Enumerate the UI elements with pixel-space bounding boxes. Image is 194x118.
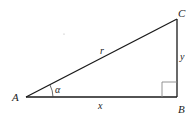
vertex-a-label: A	[11, 91, 19, 103]
right-triangle-diagram: A B C r y x α	[0, 0, 194, 118]
angle-label: α	[55, 84, 61, 95]
opposite-label: y	[179, 51, 185, 62]
vertex-c-label: C	[178, 7, 186, 19]
side-hypotenuse	[26, 19, 177, 97]
adjacent-label: x	[97, 100, 103, 111]
angle-arc	[50, 85, 53, 97]
hypotenuse-label: r	[100, 45, 104, 56]
vertex-b-label: B	[178, 103, 185, 115]
right-angle-marker	[162, 82, 177, 97]
stray-dot	[63, 33, 64, 34]
